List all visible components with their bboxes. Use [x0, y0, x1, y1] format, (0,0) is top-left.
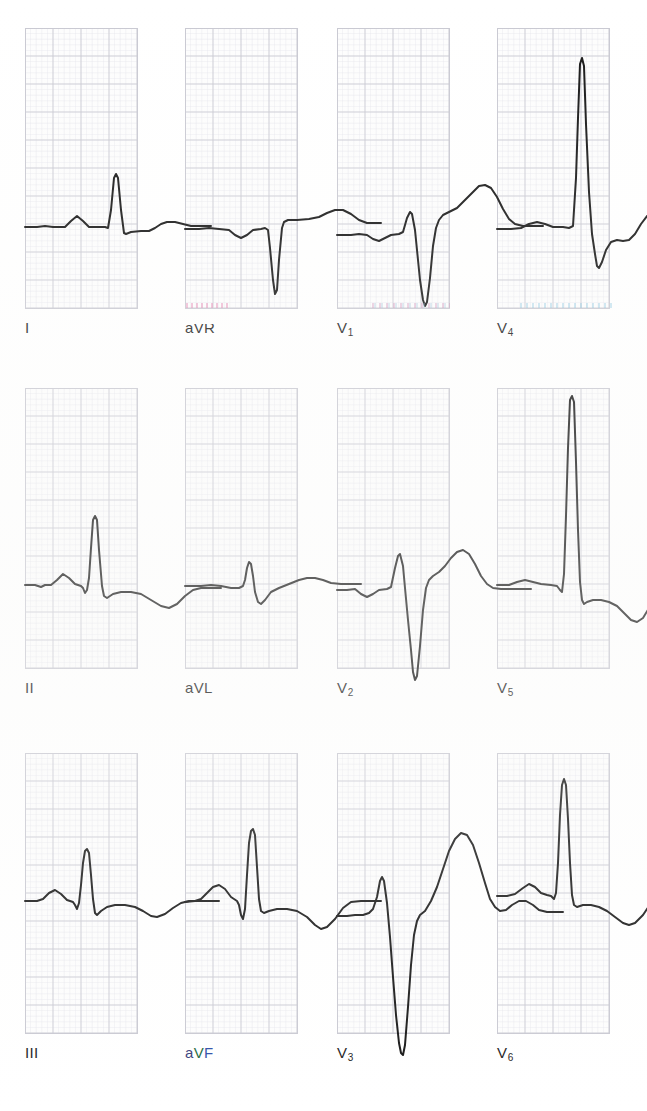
lead-label-subscript: 2 — [348, 687, 354, 698]
ecg-trace-v5 — [497, 388, 610, 669]
lead-panel-v4: V4 — [497, 28, 610, 349]
lead-label-text: II — [25, 679, 34, 696]
lead-label-glyph: a — [185, 1044, 194, 1061]
scan-fringe-avr — [186, 303, 228, 308]
lead-label-text: V — [497, 319, 507, 336]
lead-panel-avr: aVR — [185, 28, 298, 349]
lead-label-avr: aVR — [185, 320, 215, 335]
lead-label-glyph: V — [194, 1044, 204, 1061]
lead-label-text: III — [25, 1044, 38, 1061]
ecg-trace-v3 — [337, 753, 450, 1034]
lead-label-subscript: 1 — [348, 327, 354, 338]
scan-fringe-v4 — [520, 303, 616, 308]
lead-panel-i: I — [25, 28, 138, 349]
lead-panel-v2: V2 — [337, 388, 450, 709]
lead-panel-avf: aVF — [185, 753, 298, 1074]
lead-panel-v1: V1 — [337, 28, 450, 349]
lead-label-i: I — [25, 320, 29, 335]
lead-label-subscript: 5 — [508, 687, 514, 698]
lead-panel-avl: aVL — [185, 388, 298, 709]
lead-panel-ii: II — [25, 388, 138, 709]
scan-fringe-v1 — [372, 303, 450, 308]
lead-label-text: V — [337, 1044, 347, 1061]
ecg-trace-ii — [25, 388, 138, 669]
lead-label-text: aVR — [185, 319, 215, 336]
lead-label-subscript: 3 — [348, 1052, 354, 1063]
lead-label-text: V — [497, 679, 507, 696]
ecg-trace-avf — [185, 753, 298, 1034]
lead-label-text: aVL — [185, 679, 213, 696]
lead-label-text: V — [497, 1044, 507, 1061]
lead-panel-v5: V5 — [497, 388, 610, 709]
ecg-trace-avr — [185, 28, 298, 309]
lead-label-text: I — [25, 319, 29, 336]
lead-panel-v3: V3 — [337, 753, 450, 1074]
ecg-trace-i — [25, 28, 138, 309]
lead-panel-iii: III — [25, 753, 138, 1074]
lead-panel-v6: V6 — [497, 753, 610, 1074]
lead-label-ii: II — [25, 680, 34, 695]
ecg-trace-v1 — [337, 28, 450, 309]
lead-label-glyph: F — [204, 1044, 213, 1061]
ecg-trace-iii — [25, 753, 138, 1034]
lead-label-v1: V1 — [337, 320, 353, 335]
ecg-trace-v4 — [497, 28, 610, 309]
lead-label-text: V — [337, 319, 347, 336]
lead-label-text: V — [337, 679, 347, 696]
lead-label-avf: aVF — [185, 1045, 213, 1060]
lead-label-v6: V6 — [497, 1045, 513, 1060]
lead-label-v3: V3 — [337, 1045, 353, 1060]
ecg-trace-v2 — [337, 388, 450, 669]
lead-label-v4: V4 — [497, 320, 513, 335]
ecg-sheet: IaVRV1V4IIaVLV2V5IIIaVFV3V6 — [0, 0, 647, 1111]
ecg-trace-v6 — [497, 753, 610, 1034]
lead-label-subscript: 4 — [508, 327, 514, 338]
ecg-trace-avl — [185, 388, 298, 669]
lead-label-subscript: 6 — [508, 1052, 514, 1063]
lead-label-v5: V5 — [497, 680, 513, 695]
lead-label-avl: aVL — [185, 680, 213, 695]
lead-label-iii: III — [25, 1045, 38, 1060]
lead-label-v2: V2 — [337, 680, 353, 695]
